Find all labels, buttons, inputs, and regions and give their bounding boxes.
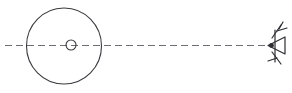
optical-axis-diagram <box>0 0 292 93</box>
eye-lash-lower-secondary-icon <box>268 58 277 61</box>
eye-lash-upper-secondary-icon <box>279 22 283 29</box>
eye-pupil-icon <box>269 43 274 48</box>
diagram-canvas: A large circle with a small circle at it… <box>0 0 292 93</box>
eye-symbol-group <box>268 22 287 64</box>
